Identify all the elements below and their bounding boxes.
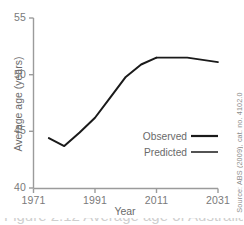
figure-container: 55 50 45 40 1971 1991 2011 2031 Average … <box>0 0 243 224</box>
clipped-caption: Figure 2.12 Average age of Australian <box>0 218 243 224</box>
y-tick-label-40: 40 <box>2 181 26 193</box>
legend-label-observed: Observed <box>125 131 187 142</box>
line-chart-plot <box>0 0 243 224</box>
y-axis-title: Average age (years) <box>12 29 24 179</box>
legend-label-predicted: Predicted <box>125 147 187 158</box>
series-line-predicted <box>157 58 219 63</box>
source-note: Source: ABS (2009), cat. no. 4102.0 <box>235 79 244 225</box>
y-tick-label-55: 55 <box>2 11 26 23</box>
clipped-caption-text: Figure 2.12 Average age of Australian <box>4 218 243 224</box>
x-axis-title: Year <box>30 205 220 217</box>
